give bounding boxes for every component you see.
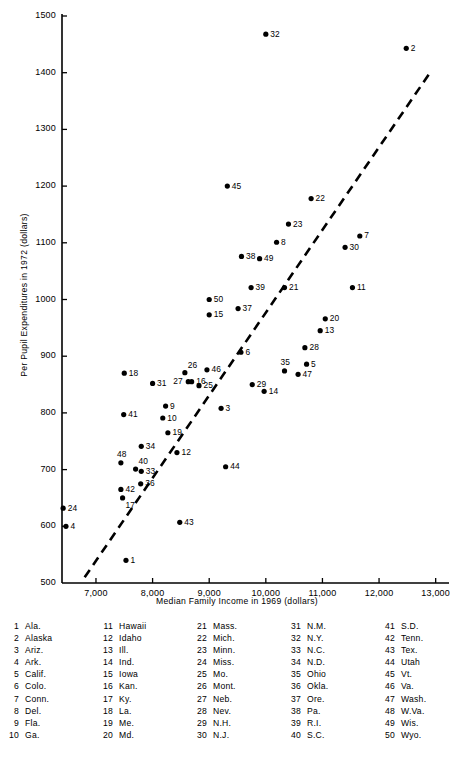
point-label-31: 31 <box>157 379 167 387</box>
y-tick-label: 1300 <box>22 123 56 133</box>
point-label-36: 36 <box>145 479 155 487</box>
scatter-plot-figure: 500600700800900100011001200130014001500 … <box>0 0 474 758</box>
legend-state-name: Idaho <box>119 632 142 644</box>
point-label-29: 29 <box>257 380 267 388</box>
legend-state-name: Ariz. <box>25 644 43 656</box>
legend-code: 39 <box>284 717 307 729</box>
legend-row: 41S.D. <box>378 620 466 632</box>
data-point-17 <box>120 495 125 500</box>
legend-row: 22Mich. <box>190 632 278 644</box>
legend-state-name: Me. <box>119 717 134 729</box>
data-point-24 <box>61 506 66 511</box>
legend-code: 20 <box>96 729 119 741</box>
legend-row: 19Me. <box>96 717 184 729</box>
legend-code: 8 <box>2 705 25 717</box>
legend-code: 23 <box>190 644 213 656</box>
point-label-3: 3 <box>226 404 231 412</box>
point-label-33: 33 <box>146 467 156 475</box>
data-point-30 <box>342 245 347 250</box>
point-label-21: 21 <box>289 283 299 291</box>
legend-row: 38Pa. <box>284 705 372 717</box>
data-point-8 <box>274 240 279 245</box>
legend-code: 6 <box>2 680 25 692</box>
legend-row: 21Mass. <box>190 620 278 632</box>
legend-row: 43Tex. <box>378 644 466 656</box>
data-point-40 <box>133 466 138 471</box>
point-label-26: 26 <box>188 361 198 369</box>
legend-row: 33N.C. <box>284 644 372 656</box>
point-label-44: 44 <box>230 462 240 470</box>
point-label-19: 19 <box>172 428 182 436</box>
data-point-36 <box>138 481 143 486</box>
legend-state-name: N.H. <box>213 717 231 729</box>
legend-code: 42 <box>378 632 401 644</box>
data-point-1 <box>123 558 128 563</box>
data-point-34 <box>139 444 144 449</box>
legend-row: 31N.M. <box>284 620 372 632</box>
point-label-45: 45 <box>232 182 242 190</box>
point-label-12: 12 <box>181 448 191 456</box>
legend-state-name: Pa. <box>307 705 321 717</box>
data-point-37 <box>235 306 240 311</box>
legend-row: 40S.C. <box>284 729 372 741</box>
point-label-39: 39 <box>256 283 266 291</box>
legend-row: 16Kan. <box>96 680 184 692</box>
legend-state-name: Ky. <box>119 693 132 705</box>
legend-state-name: S.C. <box>307 729 325 741</box>
legend-code: 49 <box>378 717 401 729</box>
data-point-21 <box>282 285 287 290</box>
legend-row: 50Wyo. <box>378 729 466 741</box>
y-tick-label: 500 <box>22 577 56 587</box>
legend-code: 1 <box>2 620 25 632</box>
legend-code: 34 <box>284 656 307 668</box>
legend-state-name: Ga. <box>25 729 40 741</box>
legend-code: 26 <box>190 680 213 692</box>
legend-code: 9 <box>2 717 25 729</box>
legend-row: 24Miss. <box>190 656 278 668</box>
trend-line-dashed <box>85 73 430 578</box>
point-label-23: 23 <box>293 220 303 228</box>
legend-state-name: Wash. <box>401 693 426 705</box>
legend-state-name: Kan. <box>119 680 138 692</box>
legend-row: 42Tenn. <box>378 632 466 644</box>
point-label-48: 48 <box>117 450 127 458</box>
legend-code: 15 <box>96 668 119 680</box>
legend-code: 40 <box>284 729 307 741</box>
legend-code: 38 <box>284 705 307 717</box>
legend-column-4: 31N.M.32N.Y.33N.C.34N.D.35Ohio36Okla.37O… <box>284 620 372 758</box>
legend-code: 30 <box>190 729 213 741</box>
legend-code: 48 <box>378 705 401 717</box>
legend-state-name: Mich. <box>213 632 235 644</box>
data-point-39 <box>249 285 254 290</box>
plot-canvas <box>0 0 474 605</box>
data-point-42 <box>118 487 123 492</box>
data-point-50 <box>207 297 212 302</box>
legend-code: 19 <box>96 717 119 729</box>
data-point-4 <box>63 524 68 529</box>
plot-area: 500600700800900100011001200130014001500 … <box>0 0 474 605</box>
legend-row: 27Neb. <box>190 693 278 705</box>
legend-code: 46 <box>378 680 401 692</box>
data-point-20 <box>323 316 328 321</box>
legend-state-name: Ind. <box>119 656 134 668</box>
legend-state-name: Fla. <box>25 717 40 729</box>
legend-row: 26Mont. <box>190 680 278 692</box>
legend-row: 8Del. <box>2 705 90 717</box>
legend-code: 28 <box>190 705 213 717</box>
legend-state-name: Tex. <box>401 644 418 656</box>
legend-code: 32 <box>284 632 307 644</box>
point-label-1: 1 <box>130 556 135 564</box>
legend-row: 28Nev. <box>190 705 278 717</box>
legend-code: 5 <box>2 668 25 680</box>
legend-code: 36 <box>284 680 307 692</box>
point-label-49: 49 <box>264 254 274 262</box>
legend-state-name: Mont. <box>213 680 236 692</box>
legend-row: 5Calif. <box>2 668 90 680</box>
legend-code: 33 <box>284 644 307 656</box>
point-label-27: 27 <box>173 377 183 385</box>
legend-code: 25 <box>190 668 213 680</box>
trend-line <box>85 73 430 578</box>
legend-row: 9Fla. <box>2 717 90 729</box>
legend-row: 6Colo. <box>2 680 90 692</box>
data-points <box>61 32 409 563</box>
